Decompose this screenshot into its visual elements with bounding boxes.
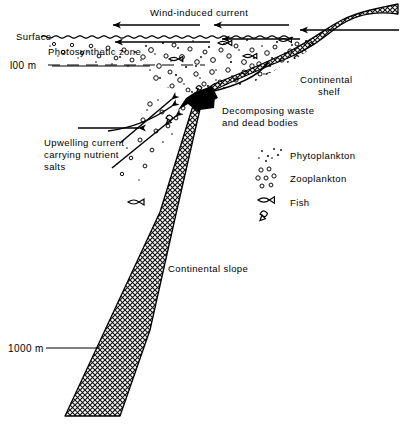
ocean-upwelling-diagram: Surface Photosynthetic zone l00 m 1000 m… [0, 0, 401, 431]
continental-shelf-label-line1: Continental [300, 74, 352, 85]
legend-item-zooplankton: Zooplankton [256, 167, 347, 188]
upwelling-current-arrows [78, 106, 172, 131]
zooplankton-circles-icon [256, 167, 276, 188]
legend-item-fish: Fish [258, 197, 310, 221]
sinking-arrow-upper [120, 99, 172, 143]
legend-label-fish: Fish [290, 197, 310, 208]
photosynthetic-zone-label: Photosynthetic zone [48, 46, 141, 57]
continental-shelf-label-line2: shelf [318, 86, 340, 97]
diagram-canvas: Surface Photosynthetic zone l00 m 1000 m… [0, 0, 401, 431]
fish-icon [258, 197, 274, 221]
fish-glyphs [164, 38, 300, 101]
depth-1000m-label: 1000 m [8, 343, 44, 354]
legend-item-phytoplankton: Phytoplankton [258, 148, 355, 162]
wind-induced-current-label: Wind-induced current [150, 7, 248, 18]
legend: Phytoplankton Zooplankton Fish [256, 148, 356, 221]
continental-slope-label: Continental slope [168, 263, 248, 274]
phytoplankton-dots-icon [258, 148, 282, 162]
legend-label-phytoplankton: Phytoplankton [290, 150, 355, 161]
decomposing-waste-label-line1: Decomposing waste [222, 105, 314, 116]
upwelling-label-line1: Upwelling current [44, 137, 124, 148]
upwelling-label-line3: salts [44, 161, 66, 172]
upwelling-label-line2: carrying nutrient [44, 149, 119, 160]
surface-label: Surface [16, 31, 52, 42]
depth-100m-label: l00 m [10, 60, 36, 71]
legend-label-zooplankton: Zooplankton [290, 173, 347, 184]
decomposing-waste-label-line2: and dead bodies [222, 117, 298, 128]
sea-surface-line [41, 36, 293, 38]
